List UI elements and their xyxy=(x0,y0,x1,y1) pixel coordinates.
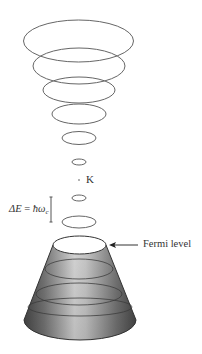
upper-landau-levels xyxy=(24,20,134,165)
fermi-level-arrow-icon xyxy=(109,242,138,248)
landau-level-ellipse xyxy=(72,159,86,165)
fermi-surface-ellipse xyxy=(53,236,106,254)
fermi-level-label: Fermi level xyxy=(143,239,191,250)
landau-level-ellipse xyxy=(62,132,96,145)
equals-sign: = xyxy=(22,203,33,214)
k-point-dot xyxy=(78,179,80,181)
landau-level-ellipse xyxy=(43,77,115,103)
lower-landau-levels xyxy=(62,195,96,228)
cyclotron-subscript: c xyxy=(45,208,48,216)
filled-states-cone xyxy=(24,236,136,340)
landau-level-diagram xyxy=(0,0,202,354)
landau-level-ellipse xyxy=(72,195,86,201)
energy-spacing-label: ΔE = ħωc xyxy=(9,204,49,216)
landau-level-ellipse xyxy=(52,104,106,124)
delta-e-symbol: ΔE xyxy=(9,203,22,214)
k-point-label: K xyxy=(86,174,94,185)
hbar-omega: ħω xyxy=(33,203,46,214)
landau-level-ellipse xyxy=(62,216,96,228)
energy-spacing-bracket xyxy=(50,197,53,222)
landau-level-ellipse xyxy=(33,48,125,84)
